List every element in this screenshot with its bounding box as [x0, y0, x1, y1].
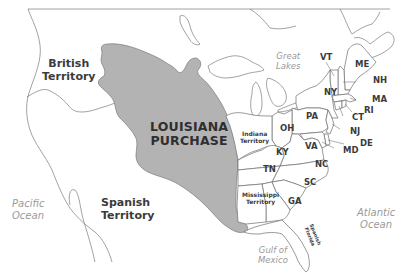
label-gulf-of-mexico: Gulf of Mexico	[258, 246, 288, 266]
lake-huron	[267, 78, 287, 106]
label-indiana-territory: Indiana Territory	[240, 131, 269, 145]
west-coastline	[27, 9, 112, 262]
lake-michigan	[251, 82, 262, 116]
label-oh: OH	[280, 124, 294, 134]
label-ma: MA	[372, 95, 387, 105]
label-atlantic-ocean: Atlantic Ocean	[357, 207, 395, 230]
british-spanish-border	[27, 89, 118, 112]
hudson-bay-inlet	[180, 15, 200, 44]
label-spanish-territory: Spanish Territory	[101, 197, 155, 222]
label-va: VA	[305, 142, 318, 152]
label-ny: NY	[324, 88, 337, 98]
label-ri: RI	[364, 106, 374, 116]
northeast-coastline	[250, 9, 394, 58]
state-connecticut	[334, 101, 342, 110]
label-british-territory: British Territory	[42, 58, 96, 83]
label-mississippi-territory: Mississippi Territory	[242, 192, 279, 206]
label-tn: TN	[263, 165, 276, 175]
label-nc: NC	[315, 160, 328, 170]
label-pacific-ocean: Pacific Ocean	[12, 198, 44, 221]
label-de: DE	[360, 139, 373, 149]
label-vt: VT	[320, 53, 332, 63]
baja-california	[69, 190, 95, 262]
state-rhode-island	[342, 100, 346, 108]
leader-de	[328, 140, 344, 144]
label-great-lakes: Great Lakes	[276, 52, 301, 72]
label-ky: KY	[276, 148, 289, 158]
lake-superior	[208, 56, 264, 78]
label-pa: PA	[306, 112, 318, 122]
label-ga: GA	[288, 197, 302, 207]
label-sc: SC	[304, 178, 316, 188]
label-md: MD	[343, 146, 359, 156]
label-nj: NJ	[350, 127, 360, 137]
label-me: ME	[355, 60, 369, 70]
leader-ri	[345, 104, 352, 112]
label-nh: NH	[373, 76, 387, 86]
label-louisiana-purchase: LOUISIANA PURCHASE	[150, 120, 228, 149]
label-ct: CT	[352, 113, 364, 123]
